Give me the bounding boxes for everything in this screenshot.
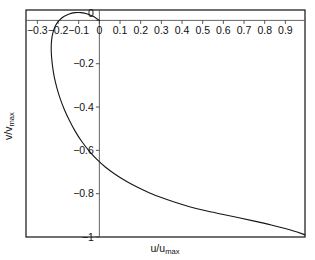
plot-frame [26,10,305,237]
data-curve [51,12,305,234]
x-tick-label: 0.2 [133,24,148,36]
x-tick-label: 0.7 [237,24,252,36]
x-axis-tick-labels: −0.3−0.2−0.100.10.20.30.40.50.60.70.80.9 [27,24,293,36]
y-axis-tick-labels: −0.2−0.4−0.6−0.8−10 [73,7,94,242]
x-tick-label: −0.3 [27,24,48,36]
y-tick-label: −0.2 [73,57,94,69]
x-tick-label: 0.6 [216,24,231,36]
x-tick-label: −0.1 [68,24,89,36]
y-tick-label: −0.4 [73,101,94,113]
x-tick-label: 0.3 [154,24,169,36]
y-tick-label-zero: 0 [88,7,94,19]
hodograph-chart: −0.3−0.2−0.100.10.20.30.40.50.60.70.80.9… [0,0,315,260]
y-tick-label: −0.6 [73,144,94,156]
x-tick-label: 0.4 [175,24,190,36]
y-tick-label: −0.8 [73,187,94,199]
y-tick-label: −1 [82,231,94,243]
chart-figure: −0.3−0.2−0.100.10.20.30.40.50.60.70.80.9… [0,0,315,260]
x-tick-label: 0 [96,24,102,36]
x-tick-label: 0.5 [195,24,210,36]
x-axis-title: u/umax [151,242,180,256]
x-tick-label: −0.2 [48,24,69,36]
x-tick-label: 0.9 [278,24,293,36]
x-axis-ticks [37,20,285,24]
x-tick-label: 0.8 [257,24,272,36]
y-axis-title: v/vmax [2,112,16,140]
y-axis-ticks [96,20,100,237]
x-tick-label: 0.1 [113,24,128,36]
